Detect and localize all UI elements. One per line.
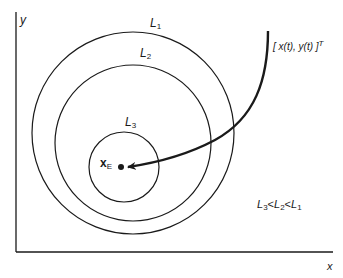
level-set-L2: [55, 65, 211, 221]
equilibrium-point: [118, 164, 124, 170]
level-label-L2: L2: [140, 47, 151, 61]
level-label-L3: L3: [125, 116, 136, 130]
level-relation: L3<L2<L1: [257, 199, 302, 212]
level-label-L1: L1: [150, 17, 161, 31]
trajectory-label: [ x(t), y(t) ]T: [273, 40, 323, 52]
equilibrium-label: xE: [100, 157, 112, 171]
y-axis-label: y: [20, 14, 26, 26]
x-axis-label: x: [327, 261, 333, 272]
